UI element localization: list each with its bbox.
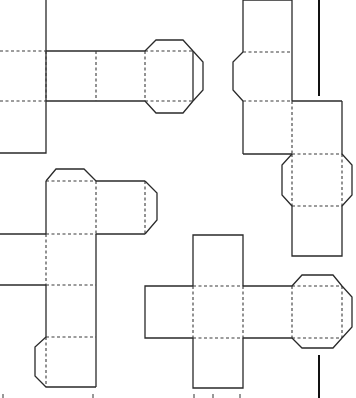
net-top-left (0, 0, 203, 153)
net-bottom-right (145, 235, 352, 388)
cube-nets-diagram (0, 0, 356, 398)
net-bottom-left (0, 169, 157, 387)
crop-ticks (3, 394, 240, 398)
net-top-right (233, 0, 352, 256)
